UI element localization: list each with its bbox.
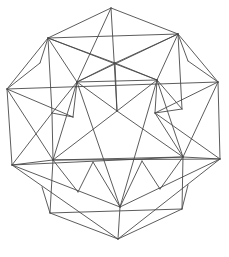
edge-ur-ir (157, 34, 178, 80)
edge-ul-il (48, 38, 77, 82)
edge-ll-bc (12, 165, 120, 207)
edge-ur-tc (115, 34, 178, 63)
edge-ll-rri (12, 157, 183, 165)
edge-tc-il (77, 63, 115, 82)
edge-il-ir (77, 80, 157, 82)
edge-ir-mr2 (157, 80, 182, 109)
edge-mr-rr (155, 113, 220, 159)
edge-b1-b3 (78, 162, 93, 192)
edge-r-rr (218, 82, 220, 159)
edge-top-il (77, 8, 111, 82)
edge-r-mr (155, 82, 218, 113)
edge-ur-r (178, 34, 218, 82)
edge-ll-bottom (12, 165, 118, 239)
edge-c-lli (53, 111, 117, 160)
edge-rri-b4 (160, 157, 183, 189)
edge-ul-lsp (40, 38, 48, 63)
edge-rr-bc (120, 159, 220, 207)
edge-ml-lli (52, 113, 53, 160)
polyhedron-diagram (0, 0, 229, 257)
edge-l-ll (7, 89, 12, 165)
edge-c-rri (117, 111, 183, 157)
edge-tc-ir (115, 63, 157, 80)
edge-ur-mr2 (178, 34, 182, 109)
edge-lsp-l (7, 63, 40, 89)
edge-top-ul (48, 8, 111, 38)
edge-il-bc (77, 82, 120, 207)
edge-bc-bottom (118, 207, 120, 239)
edge-top-ur (111, 8, 178, 34)
edge-bl-br (50, 209, 182, 213)
edge-lli-b3 (53, 160, 78, 192)
edge-ul-l (7, 38, 48, 89)
edge-b2-b4 (142, 161, 160, 189)
edge-ir-rri (157, 80, 183, 157)
edge-ul-tc (48, 38, 115, 63)
edge-l-lli (7, 89, 53, 160)
edge-l-r (7, 82, 218, 89)
edge-ml-ml2 (52, 113, 73, 117)
edge-bl-bottom (50, 213, 118, 239)
edge-ul-ml (48, 38, 52, 113)
polyhedron-line-drawing (0, 0, 229, 257)
edge-il-lli (53, 82, 77, 160)
edge-rri-br (182, 157, 183, 209)
edge-lli-bl (50, 160, 53, 213)
edge-rr-bottom (118, 159, 220, 239)
edge-l-ml2 (7, 89, 73, 117)
edge-mr-rri (155, 113, 183, 157)
edge-ir-bc (120, 80, 157, 207)
edge-ml-ll (12, 113, 52, 165)
